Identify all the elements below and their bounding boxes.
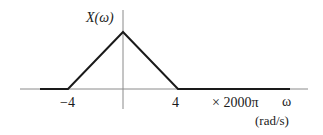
x-scale-label: × 2000π bbox=[212, 96, 258, 110]
spectrum-plot: X(ω) −4 4 × 2000π ω (rad/s) bbox=[0, 0, 323, 135]
x-units-label: (rad/s) bbox=[255, 114, 289, 127]
y-axis-label: X(ω) bbox=[86, 11, 114, 25]
x-tick-label-neg4: −4 bbox=[60, 96, 75, 110]
x-tick-label-4: 4 bbox=[172, 96, 179, 110]
x-axis-label: ω bbox=[282, 95, 291, 109]
signal-curve bbox=[40, 32, 290, 89]
